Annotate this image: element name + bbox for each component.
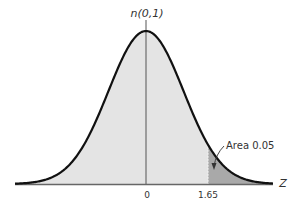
tick-label-critical: 1.65: [198, 190, 218, 200]
curve-body-area: [15, 31, 273, 184]
tick-label-zero: 0: [144, 190, 150, 200]
chart-title: n(0,1): [130, 7, 163, 20]
area-annotation: Area 0.05: [226, 140, 274, 151]
normal-distribution-chart: n(0,1) Z 0 1.65 Area 0.05: [0, 0, 304, 206]
z-axis-label: Z: [278, 177, 287, 190]
